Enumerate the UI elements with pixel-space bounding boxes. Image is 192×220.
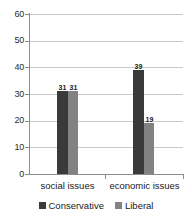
- gridline-50: [30, 41, 183, 42]
- y-tick-mark-10: [25, 147, 30, 148]
- x-axis-label-social-issues: social issues: [30, 180, 105, 191]
- legend-swatch-icon-conservative: [39, 202, 46, 209]
- legend-item-liberal[interactable]: Liberal: [115, 200, 154, 211]
- plot-area: 31 31 39 19: [30, 14, 183, 174]
- bar-social-liberal[interactable]: [68, 91, 78, 174]
- legend-label-conservative: Conservative: [49, 200, 104, 211]
- y-tick-mark-60: [25, 14, 30, 15]
- legend-label-liberal: Liberal: [125, 200, 154, 211]
- x-axis-label-economic-issues: economic issues: [105, 180, 184, 191]
- bar-chart: 31 31 39 19 60 50 40 30 20 10 0 social i…: [0, 0, 192, 220]
- y-tick-label-20: 20: [2, 116, 24, 125]
- y-tick-label-60: 60: [2, 10, 24, 19]
- data-label-economic-liberal: 19: [139, 116, 160, 123]
- y-tick-mark-40: [25, 67, 30, 68]
- chart-legend: Conservative Liberal: [0, 200, 192, 211]
- gridline-60: [30, 14, 183, 15]
- data-label-economic-conservative: 39: [128, 63, 149, 70]
- x-tick-mark-divider: [105, 174, 106, 179]
- legend-swatch-icon-liberal: [115, 202, 122, 209]
- y-tick-label-30: 30: [2, 90, 24, 99]
- y-tick-label-40: 40: [2, 63, 24, 72]
- gridline-40: [30, 67, 183, 68]
- gridline-30: [30, 94, 183, 95]
- bar-economic-liberal[interactable]: [144, 123, 154, 174]
- y-tick-label-0: 0: [2, 170, 24, 179]
- y-tick-mark-20: [25, 121, 30, 122]
- data-label-social-liberal: 31: [63, 84, 84, 91]
- legend-item-conservative[interactable]: Conservative: [39, 200, 104, 211]
- y-tick-mark-0: [25, 174, 30, 175]
- y-tick-mark-50: [25, 41, 30, 42]
- y-tick-mark-30: [25, 94, 30, 95]
- y-tick-label-10: 10: [2, 143, 24, 152]
- bar-social-conservative[interactable]: [57, 91, 68, 174]
- x-tick-mark-end: [183, 174, 184, 179]
- y-tick-label-50: 50: [2, 36, 24, 45]
- gridline-10: [30, 147, 183, 148]
- x-axis-line: [29, 174, 184, 175]
- gridline-20: [30, 121, 183, 122]
